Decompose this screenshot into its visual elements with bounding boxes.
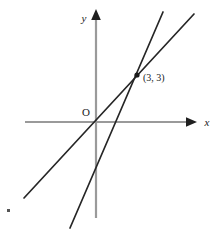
line-1-shallow — [24, 14, 194, 198]
x-axis-arrow-icon — [186, 117, 197, 127]
line-2-steep — [70, 12, 163, 228]
intersection-point-marker — [134, 72, 139, 77]
figure-root: y x O (3, 3) — [0, 0, 219, 240]
stray-dot-artifact — [7, 209, 10, 212]
y-axis-arrow-icon — [91, 9, 101, 20]
y-axis-label: y — [81, 12, 87, 24]
x-axis-label: x — [204, 116, 210, 128]
origin-label: O — [82, 106, 90, 118]
coordinate-plane-graph: y x O (3, 3) — [0, 0, 219, 240]
intersection-point-label: (3, 3) — [143, 72, 165, 84]
